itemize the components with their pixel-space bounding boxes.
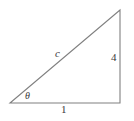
horizontal-leg-label: 1: [61, 104, 67, 115]
triangle-figure: c 4 1 θ: [0, 0, 134, 121]
theta-angle-label: θ: [25, 91, 30, 101]
hypotenuse-label: c: [55, 48, 60, 59]
vertical-leg-label: 4: [111, 52, 117, 63]
